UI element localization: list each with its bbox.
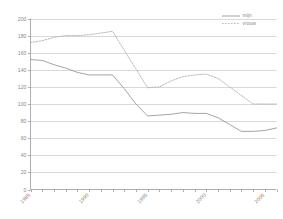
legend-label-vrouw: vrouw [243, 20, 257, 26]
series-line-vrouw [31, 31, 277, 104]
y-tick-label: 120 [18, 84, 27, 90]
chart-canvas: 020406080100120140160180200 198519901995… [0, 0, 283, 219]
x-tick-label: 2005 [253, 192, 265, 204]
x-axis-labels: 19851990199520002005 [19, 192, 266, 204]
y-axis-labels: 020406080100120140160180200 [18, 16, 27, 193]
legend-label-mijn: mijn [243, 12, 252, 18]
series-lines [31, 31, 277, 131]
y-tick-label: 100 [18, 101, 27, 107]
y-tick-label: 20 [21, 169, 27, 175]
y-tick-label: 180 [18, 33, 27, 39]
x-tick-label: 1995 [136, 192, 148, 204]
legend: mijnvrouw [222, 12, 256, 26]
x-tick-label: 1990 [77, 192, 89, 204]
line-chart: 020406080100120140160180200 198519901995… [0, 0, 283, 219]
y-tick-label: 160 [18, 50, 27, 56]
x-tick-label: 2000 [195, 192, 207, 204]
gridlines [31, 20, 277, 173]
y-tick-label: 80 [21, 118, 27, 124]
y-tick-label: 200 [18, 16, 27, 22]
y-tick-label: 60 [21, 135, 27, 141]
y-tick-label: 40 [21, 152, 27, 158]
y-tick-label: 140 [18, 67, 27, 73]
x-tick-label: 1985 [19, 192, 31, 204]
